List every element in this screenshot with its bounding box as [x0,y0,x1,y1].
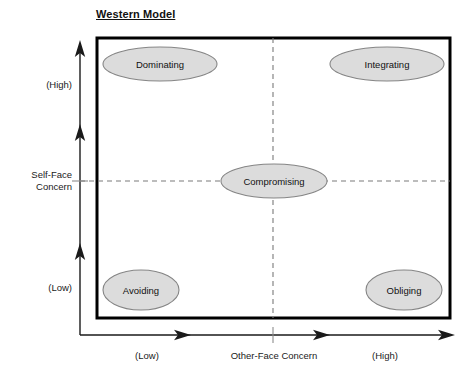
x-axis-low-label: (Low) [112,350,182,361]
node-ellipse-dominating[interactable] [103,47,217,81]
node-ellipse-avoiding[interactable] [103,270,179,310]
y-axis-low-label: (Low) [20,282,72,293]
y-axis-title: Self-FaceConcern [4,169,72,192]
y-axis-title-line2: Concern [36,181,72,192]
node-ellipse-integrating[interactable] [330,47,444,81]
y-axis-high-label: (High) [20,79,72,90]
diagram-canvas: Western Model [0,0,471,383]
x-axis-high-label: (High) [350,350,420,361]
y-axis [72,40,88,335]
x-axis-title: Other-Face Concern [213,350,335,361]
x-axis [80,327,455,343]
node-ellipse-obliging[interactable] [366,270,442,310]
y-axis-title-line1: Self-Face [31,169,72,180]
node-ellipse-compromising[interactable] [221,164,327,198]
